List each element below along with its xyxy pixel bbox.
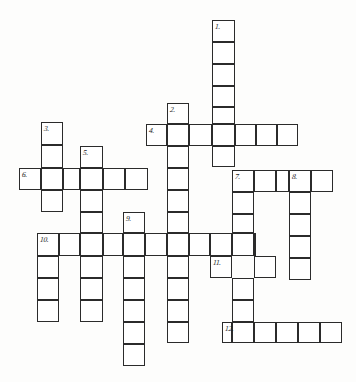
crossword-cell[interactable] [276, 170, 289, 192]
crossword-cell[interactable] [123, 322, 145, 344]
crossword-puzzle-grid[interactable]: 1.2.3.4.5.6.7.8.9.10.11.12. [0, 0, 356, 382]
crossword-cell[interactable] [146, 124, 167, 146]
crossword-cell[interactable] [167, 103, 189, 124]
crossword-cell[interactable] [123, 233, 145, 256]
crossword-cell[interactable] [212, 86, 235, 107]
crossword-cell[interactable] [59, 233, 80, 256]
crossword-cell[interactable] [167, 212, 189, 233]
crossword-cell[interactable] [311, 170, 333, 192]
crossword-cell[interactable] [80, 190, 103, 212]
crossword-cell[interactable] [37, 256, 59, 278]
crossword-cell[interactable] [189, 124, 212, 146]
crossword-cell[interactable] [19, 168, 41, 190]
crossword-cell[interactable] [232, 322, 254, 343]
crossword-cell[interactable] [63, 168, 80, 190]
crossword-cell[interactable] [276, 322, 298, 343]
crossword-cell[interactable] [167, 322, 189, 343]
crossword-cell[interactable] [289, 170, 311, 192]
crossword-cell[interactable] [167, 168, 189, 190]
crossword-cell[interactable] [37, 233, 59, 256]
crossword-cell[interactable] [212, 42, 235, 64]
crossword-cell[interactable] [145, 233, 167, 256]
crossword-cell[interactable] [254, 256, 276, 278]
crossword-cell[interactable] [41, 145, 63, 168]
crossword-cell[interactable] [232, 170, 254, 192]
crossword-cell[interactable] [41, 190, 63, 212]
crossword-cell[interactable] [167, 146, 189, 168]
crossword-cell[interactable] [232, 214, 254, 233]
crossword-cell[interactable] [123, 212, 145, 233]
crossword-cell[interactable] [80, 146, 103, 168]
crossword-cell[interactable] [189, 233, 210, 256]
crossword-cell[interactable] [167, 190, 189, 212]
crossword-cell[interactable] [167, 300, 189, 322]
crossword-cell[interactable] [232, 300, 254, 322]
crossword-cell[interactable] [167, 124, 189, 146]
crossword-cell[interactable] [123, 300, 145, 322]
crossword-cell[interactable] [232, 233, 254, 256]
crossword-cell[interactable] [80, 233, 103, 256]
crossword-cell[interactable] [37, 278, 59, 300]
crossword-cell[interactable] [210, 256, 232, 278]
crossword-cell[interactable] [212, 124, 235, 146]
crossword-cell[interactable] [167, 278, 189, 300]
crossword-cell[interactable] [235, 124, 256, 146]
crossword-cell[interactable] [289, 192, 311, 214]
crossword-cell[interactable] [212, 146, 235, 167]
crossword-cell[interactable] [212, 20, 235, 42]
crossword-cell[interactable] [232, 278, 254, 300]
crossword-cell[interactable] [103, 233, 123, 256]
crossword-cell[interactable] [41, 122, 63, 145]
crossword-cell[interactable] [277, 124, 298, 146]
crossword-cell[interactable] [41, 168, 63, 190]
crossword-cell[interactable] [254, 322, 276, 343]
crossword-cell[interactable] [289, 214, 311, 236]
crossword-cell[interactable] [212, 107, 235, 124]
crossword-cell[interactable] [80, 168, 103, 190]
crossword-cell[interactable] [289, 258, 311, 280]
crossword-cell[interactable] [256, 124, 277, 146]
crossword-cell[interactable] [123, 256, 145, 278]
crossword-cell[interactable] [123, 278, 145, 300]
crossword-cell[interactable] [80, 300, 103, 322]
crossword-cell[interactable] [167, 256, 189, 278]
crossword-cell[interactable] [80, 256, 103, 278]
crossword-cell[interactable] [232, 192, 254, 214]
crossword-cell[interactable] [37, 300, 59, 322]
crossword-cell[interactable] [254, 233, 256, 256]
crossword-cell[interactable] [210, 233, 232, 256]
crossword-cell[interactable] [125, 168, 148, 190]
crossword-cell[interactable] [212, 64, 235, 86]
crossword-cell[interactable] [80, 212, 103, 233]
crossword-cell[interactable] [298, 322, 320, 343]
crossword-cell[interactable] [103, 168, 125, 190]
crossword-cell[interactable] [222, 322, 232, 343]
crossword-cell[interactable] [320, 322, 342, 343]
crossword-cell[interactable] [254, 170, 276, 192]
crossword-cell[interactable] [80, 278, 103, 300]
crossword-cell[interactable] [167, 233, 189, 256]
crossword-cell[interactable] [289, 236, 311, 258]
crossword-cell[interactable] [123, 344, 145, 366]
